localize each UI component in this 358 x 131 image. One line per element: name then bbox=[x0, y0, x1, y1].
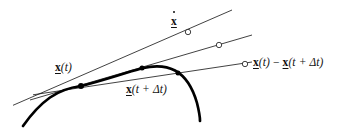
advanced-position-argument: (t + Δt) bbox=[132, 83, 167, 95]
position-label: x(t) bbox=[55, 62, 72, 74]
secant-line-2-marker bbox=[242, 61, 247, 66]
position-argument: (t) bbox=[61, 61, 72, 73]
velocity-label: x bbox=[171, 16, 177, 28]
velocity-symbol: x bbox=[171, 16, 177, 28]
point-curve-mid bbox=[140, 66, 145, 71]
vector-derivative-figure: x x(t) x(t + Δt) x(t) − x(t + Δt) bbox=[0, 0, 358, 131]
difference-argument-a: (t) bbox=[259, 56, 270, 68]
difference-label: x(t) − x(t + Δt) bbox=[253, 57, 324, 69]
point-x-t bbox=[78, 83, 84, 89]
point-x-t-plus-dt bbox=[176, 71, 181, 76]
secant-line-1-marker bbox=[216, 42, 221, 47]
tangent-line bbox=[13, 10, 232, 105]
overdot-accent bbox=[173, 11, 175, 13]
tangent-line-marker bbox=[185, 29, 190, 34]
trajectory-curve bbox=[23, 66, 200, 126]
difference-minus-sign: − bbox=[273, 56, 280, 68]
advanced-position-label: x(t + Δt) bbox=[126, 84, 167, 96]
difference-argument-b: (t + Δt) bbox=[288, 56, 323, 68]
